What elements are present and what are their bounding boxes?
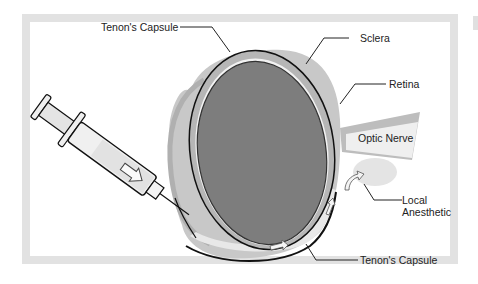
label-anesthetic: Anesthetic (402, 206, 451, 218)
leader-anesthetic (364, 184, 402, 200)
leader-tenons-bottom (306, 244, 358, 260)
leader-tenons-top (180, 27, 230, 52)
leader-retina (340, 84, 386, 104)
label-local: Local (402, 194, 427, 206)
label-tenons-capsule-top: Tenon's Capsule (101, 21, 178, 33)
label-sclera: Sclera (360, 32, 390, 44)
label-tenons-capsule-bottom: Tenon's Capsule (360, 254, 437, 266)
label-optic-nerve: Optic Nerve (358, 132, 413, 144)
label-retina: Retina (389, 78, 419, 90)
